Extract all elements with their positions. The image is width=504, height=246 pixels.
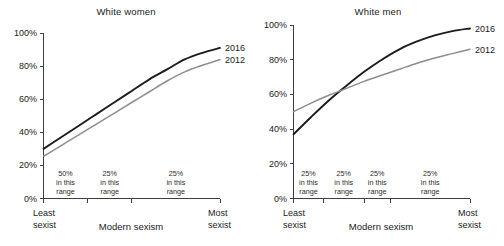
svg-text:sexist: sexist (458, 220, 482, 230)
svg-text:in this: in this (167, 178, 186, 187)
range-annotation-3: 25% in this range (167, 169, 186, 196)
svg-text:sexist: sexist (208, 220, 232, 230)
y-tick-label-80: 80% (269, 55, 287, 65)
range-annotation-1: 50% in this range (56, 169, 75, 196)
svg-text:Most: Most (458, 208, 478, 218)
svg-text:25%: 25% (103, 169, 118, 178)
svg-text:25%: 25% (301, 169, 316, 178)
plot-white-men: 0% 20% 40% 60% 80% 100% 25% in this rang… (252, 0, 504, 246)
x-ticks (294, 199, 471, 204)
y-tick-label-0: 0% (274, 194, 287, 204)
svg-text:sexist: sexist (33, 220, 57, 230)
svg-text:in this: in this (100, 178, 119, 187)
x-axis-title: Modern sexism (349, 221, 413, 232)
svg-text:range: range (421, 187, 439, 196)
svg-text:25%: 25% (337, 169, 352, 178)
svg-text:50%: 50% (58, 169, 73, 178)
svg-text:in this: in this (421, 178, 440, 187)
svg-text:range: range (368, 187, 386, 196)
svg-text:range: range (167, 187, 185, 196)
svg-text:25%: 25% (423, 169, 438, 178)
svg-text:range: range (335, 187, 353, 196)
svg-text:Least: Least (283, 208, 306, 218)
svg-text:Most: Most (208, 208, 228, 218)
y-tick-label-60: 60% (269, 89, 287, 99)
svg-text:25%: 25% (169, 169, 184, 178)
x-endpoint-left: Least sexist (33, 208, 57, 230)
panel-white-women: White women 0% 20% 40% 60% 80% 100% (0, 0, 252, 246)
y-tick-label-0: 0% (24, 194, 37, 204)
y-tick-label-40: 40% (269, 124, 287, 134)
figure-two-panel-chart: White women 0% 20% 40% 60% 80% 100% (0, 0, 504, 246)
series-line-2016 (44, 48, 221, 149)
y-tick-label-40: 40% (19, 127, 37, 137)
y-tick-label-60: 60% (19, 94, 37, 104)
y-ticks (40, 33, 44, 199)
x-ticks (44, 199, 221, 204)
x-axis-title: Modern sexism (99, 221, 163, 232)
y-tick-label-20: 20% (19, 160, 37, 170)
range-annotation-2: 25% in this range (334, 169, 353, 196)
plot-white-women: 0% 20% 40% 60% 80% 100% 50% in this rang… (0, 0, 252, 246)
series-label-2012: 2012 (225, 55, 245, 65)
x-endpoint-right: Most sexist (458, 208, 482, 230)
x-endpoint-right: Most sexist (208, 208, 232, 230)
svg-text:25%: 25% (370, 169, 385, 178)
range-annotation-3: 25% in this range (368, 169, 387, 196)
y-tick-label-20: 20% (269, 159, 287, 169)
range-annotation-1: 25% in this range (299, 169, 318, 196)
series-line-2012 (44, 59, 221, 156)
svg-text:range: range (101, 187, 119, 196)
svg-text:sexist: sexist (283, 220, 307, 230)
svg-text:in this: in this (334, 178, 353, 187)
range-annotation-4: 25% in this range (421, 169, 440, 196)
svg-text:Least: Least (33, 208, 56, 218)
y-tick-label-100: 100% (14, 28, 37, 38)
panel-white-men: White men 0% 20% 40% 60% 80% 100% (252, 0, 504, 246)
x-endpoint-left: Least sexist (283, 208, 307, 230)
svg-text:range: range (299, 187, 317, 196)
svg-text:in this: in this (56, 178, 75, 187)
range-annotation-2: 25% in this range (100, 169, 119, 196)
svg-text:range: range (56, 187, 74, 196)
svg-text:in this: in this (299, 178, 318, 187)
series-label-2012: 2012 (475, 45, 495, 55)
svg-text:in this: in this (368, 178, 387, 187)
y-tick-label-80: 80% (19, 61, 37, 71)
series-label-2016: 2016 (475, 24, 495, 34)
y-tick-label-100: 100% (264, 20, 287, 30)
series-line-2016 (294, 28, 471, 134)
series-label-2016: 2016 (225, 43, 245, 53)
